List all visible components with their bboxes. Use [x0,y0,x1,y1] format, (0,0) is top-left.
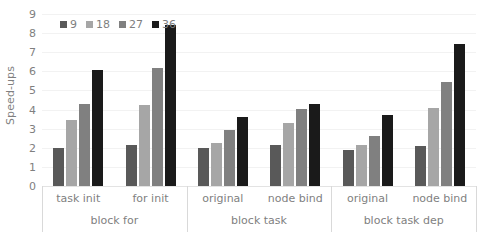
bar-cluster [331,14,403,186]
plot-area [42,14,476,186]
y-axis-tick-label: 0 [20,181,36,192]
bar [165,25,176,186]
chart-legend: 9182736 [60,19,176,30]
y-axis-title-label: Speed-ups [5,65,18,124]
x-axis-category-label: for init [114,192,186,205]
bar-cluster [404,14,476,186]
bar-group [187,14,332,186]
x-axis-group-labels: block forblock taskblock task dep [42,214,476,227]
legend-item[interactable]: 36 [152,19,176,30]
bar [309,104,320,186]
bar [382,115,393,186]
legend-swatch-icon [152,21,159,28]
bar [66,120,77,186]
bar [454,44,465,186]
bar [415,146,426,186]
y-axis-tick-label: 6 [20,66,36,77]
bar [92,70,103,186]
y-axis-tick-label: 4 [20,104,36,115]
axis-baseline [42,186,476,187]
x-axis-group-cell: task initfor init [42,192,187,205]
legend-swatch-icon [119,21,126,28]
y-axis-tick-label: 7 [20,47,36,58]
bar-group [331,14,476,186]
y-axis-tick-labels: 9876543210 [20,14,36,186]
legend-label: 27 [129,19,143,30]
legend-swatch-icon [86,21,93,28]
bar [441,82,452,186]
bar-cluster [187,14,259,186]
legend-item[interactable]: 9 [60,19,77,30]
x-axis-group-label: block for [42,214,187,227]
legend-item[interactable]: 27 [119,19,143,30]
bar [428,108,439,186]
legend-label: 36 [162,19,176,30]
legend-label: 9 [70,19,77,30]
legend-swatch-icon [60,21,67,28]
bar [237,117,248,186]
bar [356,145,367,186]
bar [53,148,64,186]
legend-label: 18 [96,19,110,30]
bar [198,148,209,186]
bar [152,68,163,186]
y-axis-tick-label: 9 [20,9,36,20]
x-axis-category-label: node bind [404,192,476,205]
legend-item[interactable]: 18 [86,19,110,30]
y-axis-tick-label: 1 [20,161,36,172]
bar-groups [42,14,476,186]
bar [296,109,307,186]
bar-group [42,14,187,186]
axis-group-separator [187,186,188,232]
bar [283,123,294,186]
axis-group-separator [42,186,43,232]
x-axis-group-cell: originalnode bind [331,192,476,205]
bar [343,150,354,186]
bar [126,145,137,186]
axis-group-separator [331,186,332,232]
x-axis-category-label: original [187,192,259,205]
y-axis-tick-label: 3 [20,123,36,134]
bar [270,145,281,186]
y-axis-tick-label: 2 [20,142,36,153]
x-axis-sub-labels: task initfor initoriginalnode bindorigin… [42,192,476,205]
x-axis-group-label: block task dep [331,214,476,227]
bar-cluster [114,14,186,186]
bar [79,104,90,186]
bar-chart: Speed-ups 9876543210 task initfor initor… [0,0,481,238]
axis-group-separator [476,186,477,232]
y-axis-tick-label: 5 [20,85,36,96]
y-axis-title: Speed-ups [2,0,20,190]
x-axis-category-label: task init [42,192,114,205]
x-axis-category-label: original [331,192,403,205]
bar [224,130,235,186]
bar-cluster [259,14,331,186]
bar-cluster [42,14,114,186]
bar [369,136,380,186]
x-axis-category-label: node bind [259,192,331,205]
x-axis-group-cell: originalnode bind [187,192,332,205]
y-axis-tick-label: 8 [20,28,36,39]
x-axis-group-label: block task [187,214,332,227]
bar [139,105,150,186]
bar [211,143,222,186]
